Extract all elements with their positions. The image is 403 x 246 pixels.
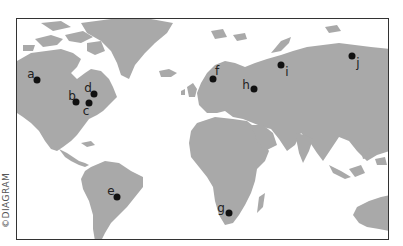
marker-label-g: g	[217, 202, 225, 214]
marker-label-h: h	[242, 79, 250, 91]
marker-label-b: b	[68, 90, 76, 102]
marker-label-c: c	[83, 105, 90, 117]
australia	[353, 195, 389, 231]
marker-dot-g	[226, 210, 233, 217]
marker-label-d: d	[84, 82, 92, 94]
british-isles	[181, 83, 197, 97]
madagascar	[257, 193, 265, 213]
marker-label-e: e	[107, 185, 114, 197]
marker-label-f: f	[215, 65, 219, 77]
marker-label-j: j	[356, 57, 359, 69]
marker-dot-j	[349, 53, 356, 60]
marker-label-a: a	[27, 68, 34, 80]
svalbard	[211, 29, 247, 41]
south-america	[81, 161, 143, 240]
marker-label-i: i	[285, 66, 288, 78]
iceland	[159, 69, 177, 77]
north-america	[17, 49, 117, 151]
world-map-frame: a b c d e f g h i j	[16, 18, 389, 240]
marker-dot-h	[251, 86, 258, 93]
world-map	[17, 19, 389, 240]
marker-dot-i	[278, 62, 285, 69]
copyright-credit: ©DIAGRAM	[1, 173, 11, 228]
